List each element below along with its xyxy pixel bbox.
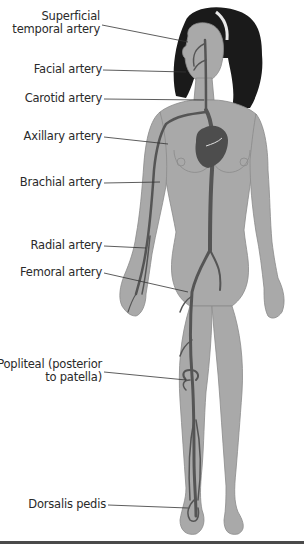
label-radial: Radial artery [31, 239, 102, 252]
label-carotid: Carotid artery [25, 92, 102, 105]
label-axillary: Axillary artery [24, 130, 102, 143]
label-facial: Facial artery [34, 63, 102, 76]
label-popliteal: Popliteal (posterior to patella) [0, 358, 102, 384]
label-brachial: Brachial artery [20, 176, 102, 189]
label-dorsalis-pedis: Dorsalis pedis [28, 498, 106, 511]
leader-carotid [104, 99, 204, 100]
leader-popliteal [104, 372, 186, 380]
leader-dorsalis-pedis [108, 505, 188, 508]
leader-facial [103, 70, 186, 72]
leader-superficial-temporal [102, 25, 188, 42]
label-femoral: Femoral artery [20, 266, 102, 279]
label-superficial-temporal: Superficial temporal artery [12, 10, 100, 36]
